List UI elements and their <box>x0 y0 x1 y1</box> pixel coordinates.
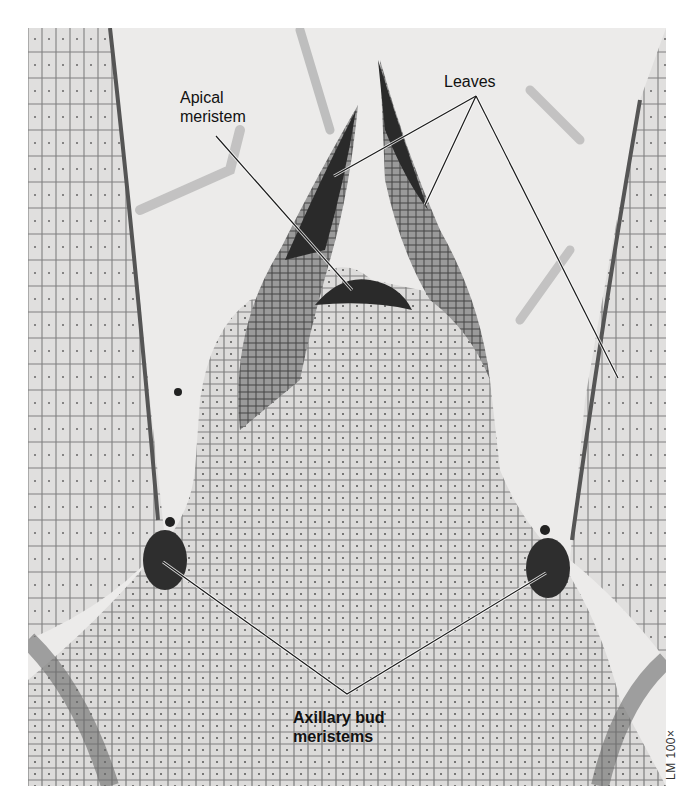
apical-meristem-label: Apical meristem <box>180 88 246 126</box>
leaves-label: Leaves <box>444 72 496 91</box>
axillary-bud-meristems-label: Axillary bud meristems <box>293 708 385 746</box>
magnification-caption: LM 100× <box>664 729 678 780</box>
tissue-illustration <box>28 28 666 786</box>
micrograph-image <box>28 28 666 786</box>
